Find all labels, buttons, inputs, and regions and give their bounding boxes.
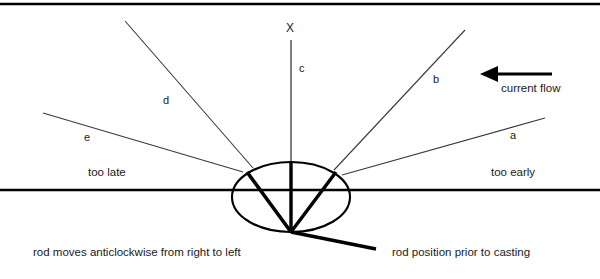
ray-label-e: e <box>84 132 90 143</box>
ray-label-b: b <box>433 74 439 85</box>
current-flow-label: current flow <box>501 83 560 95</box>
diagram-canvas: X c d e b a current flow too late too ea… <box>0 0 600 279</box>
ray-label-c: c <box>299 63 305 74</box>
zone-label-too-late: too late <box>88 167 126 179</box>
ray-b-line <box>334 30 465 170</box>
ray-label-a: a <box>510 130 516 141</box>
ray-label-d: d <box>163 95 169 106</box>
caption-rod-movement: rod moves anticlockwise from right to le… <box>33 247 241 259</box>
rod-position-line <box>291 232 376 249</box>
ray-d-line <box>125 21 253 168</box>
zone-label-too-early: too early <box>491 167 535 179</box>
caption-rod-position: rod position prior to casting <box>392 247 530 259</box>
axis-label-x: X <box>286 22 294 34</box>
current-flow-arrow-head <box>480 66 498 82</box>
